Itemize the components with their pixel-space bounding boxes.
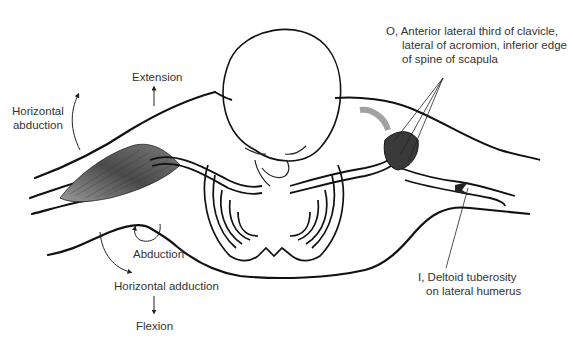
origin-label-line-1: O, Anterior lateral third of clavicle,	[386, 24, 567, 38]
horizontal-adduction-label: Horizontal adduction	[114, 279, 219, 293]
flexion-label: Flexion	[136, 319, 173, 333]
insertion-label-line-1: I, Deltoid tuberosity	[418, 270, 521, 284]
insertion-label-line-2: on lateral humerus	[418, 284, 521, 298]
left-deltoid-muscle	[60, 144, 180, 202]
horizontal-abduction-label-line-1: Horizontal	[12, 104, 64, 118]
insertion-label: I, Deltoid tuberosity on lateral humerus	[418, 270, 521, 298]
horizontal-adduction-arrow-icon	[100, 232, 130, 272]
insertion-leader-line	[446, 188, 468, 268]
torso-outline	[175, 207, 530, 278]
horizontal-abduction-label: Horizontal abduction	[12, 104, 64, 132]
head	[223, 29, 341, 161]
origin-label-line-3: of spine of scapula	[386, 52, 567, 66]
horizontal-abduction-arrow-icon	[72, 95, 80, 150]
origin-label-line-2: lateral of acromion, inferior edge	[386, 38, 567, 52]
right-acromion-shading	[384, 132, 418, 170]
extension-label: Extension	[132, 70, 183, 84]
horizontal-abduction-label-line-2: abduction	[12, 118, 64, 132]
abduction-label: Abduction	[133, 247, 184, 261]
origin-label: O, Anterior lateral third of clavicle, l…	[386, 24, 567, 66]
